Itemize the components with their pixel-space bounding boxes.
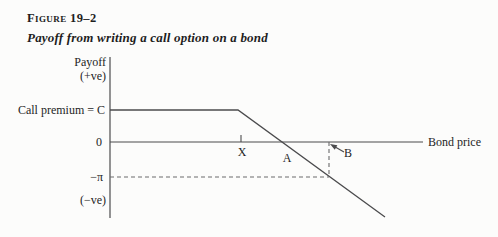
x-axis-title: Bond price	[428, 135, 481, 149]
y-axis-title: Payoff	[0, 55, 106, 69]
y-tick-minus-pi-label: −π	[0, 170, 103, 184]
point-b-label: B	[344, 146, 352, 160]
y-axis-positive-sign-label: (+ve)	[0, 69, 106, 83]
payoff-line	[110, 110, 385, 217]
figure-label: Figure 19–2	[27, 11, 97, 26]
textbook-figure-page: { "figure": { "label": "Figure 19\u20132…	[0, 0, 498, 237]
figure-caption: Payoff from writing a call option on a b…	[27, 30, 268, 46]
y-tick-zero-label: 0	[0, 135, 102, 149]
point-a-label: A	[281, 151, 293, 165]
y-axis-negative-sign-label: (−ve)	[0, 193, 106, 207]
x-tick-strike-label: X	[236, 145, 248, 159]
y-tick-call-premium-label: Call premium = C	[0, 103, 105, 117]
b-arrow-head-icon	[330, 144, 337, 150]
